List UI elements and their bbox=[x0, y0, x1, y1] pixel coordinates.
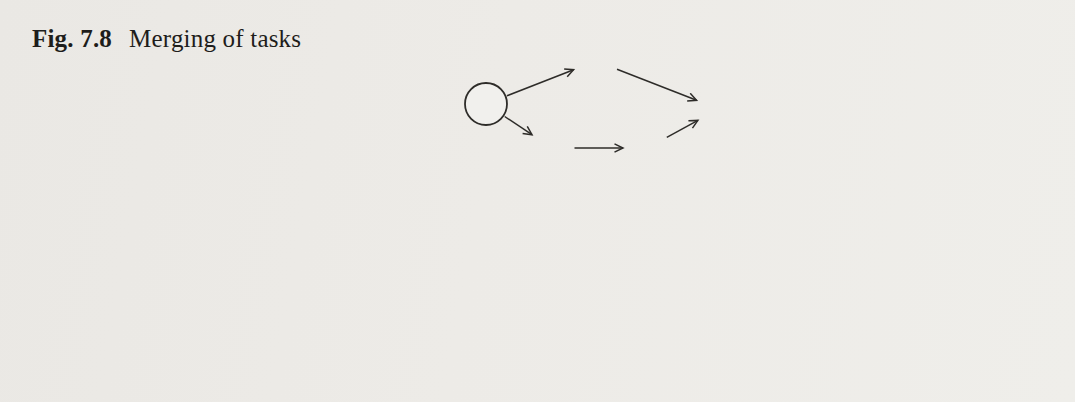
edge-t2-t5 bbox=[617, 69, 697, 100]
graph-top-source bbox=[465, 69, 698, 148]
edge-t1-t3 bbox=[505, 117, 532, 135]
edge-t1-t2 bbox=[507, 70, 574, 96]
edge-t4-t5 bbox=[667, 120, 698, 137]
scanned-book-page: Fig. 7.8Merging of tasks bbox=[0, 0, 1075, 402]
node-top-source-t1 bbox=[465, 83, 507, 125]
task-graphs-svg bbox=[0, 0, 1075, 402]
graphs-root bbox=[465, 69, 698, 148]
task-circle bbox=[465, 83, 507, 125]
